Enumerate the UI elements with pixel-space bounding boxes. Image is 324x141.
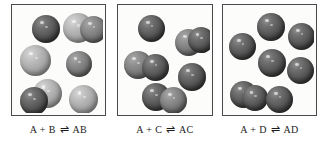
specular-highlight-secondary [270,24,273,26]
caption-ac: A + C ⇌ AC [117,120,213,138]
specular-highlight-secondary [93,26,95,28]
specular-highlight [168,93,172,96]
specular-highlight [295,63,299,66]
specular-highlight-secondary [254,95,256,97]
sphere-a-1 [32,15,60,43]
sphere-d-1 [257,13,285,41]
sphere-a-1 [288,23,314,50]
specular-highlight-secondary [35,57,38,59]
specular-highlight [132,57,136,60]
sphere-d-4 [242,85,268,111]
sphere-a-4 [266,86,293,113]
specular-highlight [150,60,154,63]
specular-highlight [183,35,187,38]
specular-highlight [74,57,77,60]
panel-ad-content [225,7,314,113]
specular-highlight [250,91,253,94]
sphere-d-2 [229,33,256,60]
specular-highlight [186,69,190,72]
specular-highlight-secondary [155,64,157,66]
sphere-c-4 [160,87,187,113]
specular-highlight [274,92,278,95]
specular-highlight-secondary [83,96,86,98]
caption-ac-left: A + C [136,124,162,135]
specular-highlight-secondary [200,37,202,39]
specular-highlight-secondary [155,94,158,96]
specular-highlight-secondary [137,62,140,64]
caption-ac-right: AC [179,124,194,135]
equilibrium-arrow-icon: ⇌ [270,120,281,138]
caption-ab-right: AB [72,124,87,135]
specular-highlight [266,55,270,58]
equilibrium-figure: A + B ⇌ AB A + C ⇌ AC A + D ⇌ AD [0,0,324,141]
sphere-c-3 [178,63,206,91]
specular-highlight-secondary [78,61,80,63]
equilibrium-arrow-icon: ⇌ [165,120,176,138]
panel-ac [117,4,213,116]
specular-highlight-secondary [191,74,194,76]
specular-highlight-secondary [279,96,281,98]
specular-highlight-secondary [45,26,48,28]
specular-highlight [265,19,269,22]
specular-highlight [28,93,32,96]
specular-highlight [78,91,82,94]
sphere-b-2 [20,45,51,76]
specular-highlight [29,52,33,55]
caption-ab-left: A + B [30,124,56,135]
sphere-a-2 [80,16,103,43]
specular-highlight [146,21,150,24]
specular-highlight-secondary [242,43,244,45]
sphere-a-3 [142,54,169,81]
specular-highlight-secondary [47,90,50,92]
sphere-a-3 [66,51,92,77]
panel-ad [222,4,317,116]
panel-ac-content [120,7,210,113]
specular-highlight [150,89,154,92]
panel-ab-content [14,7,103,113]
sphere-a-1 [138,15,165,42]
equilibrium-arrow-icon: ⇌ [59,120,70,138]
sphere-a-2 [258,49,286,77]
sphere-b-4 [69,85,98,113]
caption-ad: A + D ⇌ AD [222,120,317,138]
specular-highlight [196,33,199,36]
caption-ad-left: A + D [240,124,267,135]
specular-highlight-secondary [301,33,303,35]
specular-highlight-secondary [33,98,36,100]
sphere-d-3 [287,57,314,84]
caption-ad-right: AD [283,124,298,135]
specular-highlight-secondary [151,25,153,27]
specular-highlight [40,21,44,24]
specular-highlight [238,87,242,90]
sphere-a-4 [20,87,48,113]
specular-highlight [237,39,241,42]
specular-highlight [72,20,76,23]
specular-highlight [296,29,300,32]
panel-ab [11,4,106,116]
caption-ab: A + B ⇌ AB [11,120,106,138]
specular-highlight-secondary [173,97,175,99]
specular-highlight [42,85,46,88]
specular-highlight-secondary [300,67,302,69]
sphere-a-2 [188,27,210,53]
specular-highlight-secondary [271,60,274,62]
specular-highlight [88,22,92,25]
